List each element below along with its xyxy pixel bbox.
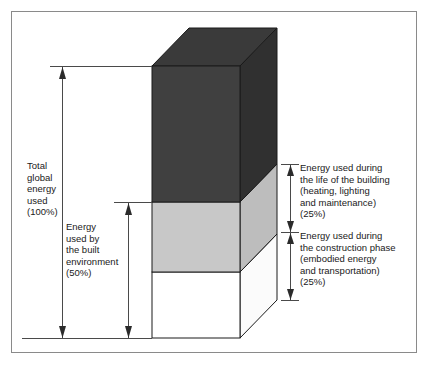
dimension-construction-arrowhead-bottom: [287, 289, 294, 300]
label-built-environment-energy: Energy used by the built environment (50…: [66, 221, 138, 279]
label-life-of-building-energy: Energy used during the life of the build…: [300, 162, 422, 220]
bar-segment-construction-phase-front: [152, 272, 240, 338]
dimension-life-of-building: [281, 165, 299, 233]
dimension-built-arrowhead-bottom: [125, 326, 132, 338]
bar-segment-other-energy-front: [152, 66, 240, 202]
dimension-life-arrowhead-bottom: [287, 221, 294, 232]
bar-segment-life-of-building-front: [152, 202, 240, 272]
dimension-total-arrowhead-bottom: [59, 326, 66, 338]
dimension-construction-arrowhead-top: [287, 233, 294, 244]
dimension-life-arrowhead-top: [287, 165, 294, 176]
bar-segment-other-energy: [152, 28, 277, 202]
dimension-construction-phase: [281, 233, 299, 301]
label-construction-phase-energy: Energy used during the construction phas…: [300, 230, 424, 288]
label-total-global-energy: Total global energy used (100%): [27, 160, 93, 218]
dimension-total-arrowhead-top: [59, 67, 66, 79]
diagram-canvas: Total global energy used (100%) Energy u…: [0, 0, 429, 368]
stacked-bar-3d: [152, 28, 277, 338]
dimension-built-arrowhead-top: [125, 203, 132, 215]
